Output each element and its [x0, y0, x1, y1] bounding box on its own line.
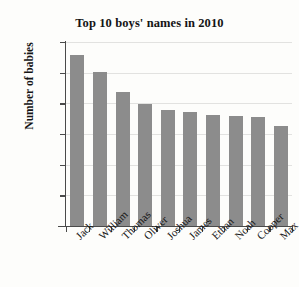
y-tick-mark [60, 134, 66, 135]
bar [138, 104, 152, 226]
bar [116, 92, 130, 226]
y-tick-mark [60, 73, 66, 74]
y-tick-mark [60, 165, 66, 166]
bar [161, 110, 175, 226]
gridline [66, 42, 292, 43]
bar [251, 117, 265, 226]
bar-chart: Top 10 boys' names in 2010 Number of bab… [0, 0, 299, 287]
bar [93, 72, 107, 226]
x-tick-mark [66, 226, 67, 232]
plot-area: 0100200300400500600 JackWilliamThomasOli… [66, 42, 292, 226]
y-tick-mark [60, 195, 66, 196]
bar [229, 116, 243, 226]
chart-title: Top 10 boys' names in 2010 [0, 16, 299, 31]
y-axis-title: Number of babies [23, 11, 35, 161]
bar [183, 112, 197, 226]
y-tick-mark [60, 42, 66, 43]
y-tick-mark [60, 103, 66, 104]
bar [70, 55, 84, 226]
bar [206, 115, 220, 226]
